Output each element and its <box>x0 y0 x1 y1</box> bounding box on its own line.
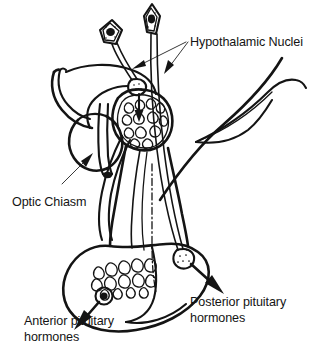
label-anterior-pituitary-line1: Anterior pituitary <box>24 314 115 328</box>
brain-tissue-contour <box>160 58 306 200</box>
anatomical-diagram: Hypothalamic Nuclei Optic Chiasm Anterio… <box>0 0 320 354</box>
label-posterior-pituitary-line1: Posterior pituitary <box>190 295 287 309</box>
median-eminence-release-arrow <box>135 110 144 122</box>
label-posterior-pituitary-line2: hormones <box>190 311 245 325</box>
hypothalamic-neuron-soma-left <box>100 20 137 80</box>
diagram-canvas: Hypothalamic Nuclei Optic Chiasm Anterio… <box>0 0 320 354</box>
label-anterior-pituitary-line2: hormones <box>24 330 79 344</box>
hypothalamus-contour <box>52 65 156 128</box>
label-hypothalamic-nuclei: Hypothalamic Nuclei <box>190 35 303 49</box>
hypophyseal-portal-vein <box>99 136 130 240</box>
hypothalamic-neuron-soma-right <box>144 4 160 34</box>
optic-chiasm-lobe <box>69 114 122 171</box>
label-optic-chiasm: Optic Chiasm <box>12 195 86 209</box>
